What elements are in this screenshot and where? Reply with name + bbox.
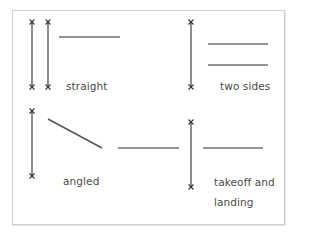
panel-angled — [30, 109, 180, 179]
angled-segment — [48, 119, 102, 148]
label-takeoff-line1: takeoff and — [214, 172, 275, 192]
label-angled: angled — [63, 171, 99, 191]
vertical-runway — [30, 20, 35, 90]
vertical-runway — [189, 20, 194, 90]
vertical-runway — [30, 109, 35, 179]
label-two-sides: two sides — [220, 76, 270, 96]
vertical-runway — [189, 120, 194, 190]
vertical-runway — [46, 20, 51, 90]
label-straight: straight — [66, 76, 108, 96]
label-takeoff-line2: landing — [214, 192, 254, 212]
